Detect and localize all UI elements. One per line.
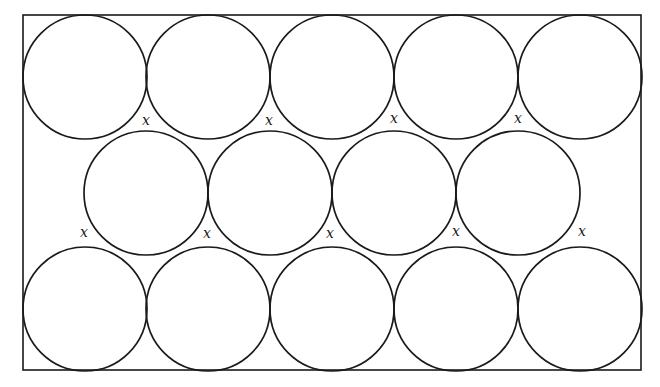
circle-middle-2 xyxy=(208,131,332,255)
circle-top-4 xyxy=(394,15,518,139)
circle-top-1 xyxy=(23,15,147,139)
circle-top-5 xyxy=(518,15,642,139)
circle-bottom-4 xyxy=(394,247,518,371)
circle-bottom-5 xyxy=(518,247,642,371)
gap-label-x: x xyxy=(390,110,398,126)
circle-middle-3 xyxy=(332,131,456,255)
circle-bottom-3 xyxy=(270,247,394,371)
gap-label-x: x xyxy=(326,225,334,241)
circles-group xyxy=(23,15,642,371)
circle-top-2 xyxy=(146,15,270,139)
circle-top-3 xyxy=(270,15,394,139)
gap-label-x: x xyxy=(514,110,522,126)
gap-label-x: x xyxy=(142,112,150,128)
circle-middle-4 xyxy=(456,131,580,255)
circle-bottom-1 xyxy=(23,247,147,371)
gap-label-x: x xyxy=(578,223,586,239)
gap-label-x: x xyxy=(452,223,460,239)
gap-label-x: x xyxy=(80,224,88,240)
circle-middle-1 xyxy=(84,131,208,255)
circle-packing-diagram: xxxxxxxxx xyxy=(0,0,660,387)
gap-labels-group: xxxxxxxxx xyxy=(80,110,586,241)
circle-bottom-2 xyxy=(146,247,270,371)
gap-label-x: x xyxy=(203,225,211,241)
gap-label-x: x xyxy=(265,112,273,128)
